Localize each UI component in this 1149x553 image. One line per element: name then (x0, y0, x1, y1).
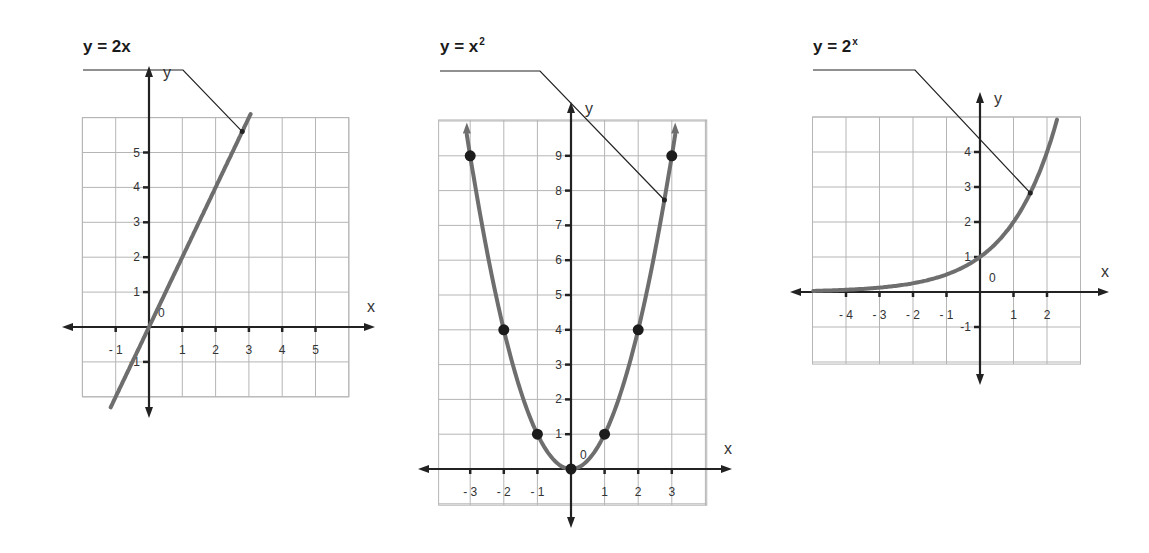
x-tick-label: - 1 (939, 308, 953, 322)
y-axis-down-arrow-icon (145, 407, 153, 418)
axes: - 4- 3- 2- 112-11234xy0 (790, 90, 1109, 385)
y-tick-label: 4 (133, 180, 140, 194)
data-point (633, 324, 644, 335)
x-axis-label: x (367, 298, 375, 315)
origin-label: 0 (989, 271, 996, 285)
y-tick-label: 9 (555, 149, 562, 163)
x-tick-label: 2 (212, 343, 219, 357)
x-tick-label: 1 (601, 485, 608, 499)
data-point (532, 429, 543, 440)
data-point (566, 464, 577, 475)
y-tick-label: 7 (555, 218, 562, 232)
x-tick-label: - 2 (497, 485, 511, 499)
x-tick-label: 3 (668, 485, 675, 499)
function-curve (111, 114, 251, 407)
data-point (666, 150, 677, 161)
graphs-canvas: - 112345-112345xy0 - 3- 2- 1123123456789… (0, 0, 1149, 553)
x-axis-left-arrow-icon (62, 323, 73, 331)
y-axis-down-arrow-icon (567, 517, 575, 528)
x-tick-label: - 1 (109, 343, 123, 357)
x-tick-label: 2 (1044, 308, 1051, 322)
x-axis-left-arrow-icon (790, 288, 801, 296)
x-tick-label: 2 (635, 485, 642, 499)
leader-anchor-dot (1028, 190, 1033, 195)
y-axis-up-arrow-icon (145, 66, 153, 77)
x-tick-label: 3 (246, 343, 253, 357)
data-point (599, 429, 610, 440)
x-tick-label: - 4 (839, 308, 853, 322)
x-tick-label: - 3 (872, 308, 886, 322)
x-axis-label: x (1101, 263, 1109, 280)
chart-quadratic: - 3- 2- 1123123456789xy0 (418, 71, 732, 528)
x-tick-label: - 2 (906, 308, 920, 322)
leader-anchor-dot (240, 129, 245, 134)
y-tick-label: 4 (964, 145, 971, 159)
y-tick-label: 5 (133, 146, 140, 160)
data-point (498, 324, 509, 335)
x-axis-right-arrow-icon (364, 323, 375, 331)
y-tick-label: 2 (964, 215, 971, 229)
x-tick-label: - 3 (463, 485, 477, 499)
y-tick-label: 1 (133, 285, 140, 299)
x-axis-right-arrow-icon (1098, 288, 1109, 296)
y-axis-down-arrow-icon (976, 374, 984, 385)
leader-anchor-dot (662, 197, 667, 202)
x-tick-label: 1 (179, 343, 186, 357)
chart-exponential: - 4- 3- 2- 112-11234xy0 (790, 70, 1109, 385)
x-axis-right-arrow-icon (721, 465, 732, 473)
x-tick-label: 5 (312, 343, 319, 357)
axes: - 3- 2- 1123123456789xy0 (418, 100, 732, 528)
y-axis-label: y (585, 100, 593, 117)
x-tick-label: 4 (279, 343, 286, 357)
chart-linear: - 112345-112345xy0 (62, 64, 375, 418)
y-tick-label: 3 (133, 215, 140, 229)
y-tick-label: -1 (960, 320, 971, 334)
y-axis-up-arrow-icon (976, 92, 984, 103)
grid (813, 117, 1081, 364)
x-axis-label: x (724, 440, 732, 457)
x-axis-left-arrow-icon (418, 465, 429, 473)
curve-arrow-icon (671, 123, 679, 134)
y-tick-label: 3 (964, 180, 971, 194)
y-axis-label: y (994, 90, 1002, 107)
y-tick-label: 2 (133, 250, 140, 264)
y-tick-label: 5 (555, 288, 562, 302)
data-point (465, 150, 476, 161)
x-tick-label: 1 (1010, 308, 1017, 322)
x-tick-label: - 1 (530, 485, 544, 499)
y-axis-label: y (163, 64, 171, 81)
y-tick-label: 1 (555, 427, 562, 441)
y-tick-label: 4 (555, 323, 562, 337)
function-curve (813, 120, 1057, 291)
y-tick-label: 6 (555, 253, 562, 267)
y-tick-label: 8 (555, 184, 562, 198)
curve-arrow-icon (463, 123, 471, 134)
function-graphs-figure: y = 2x y = x2 y = 2x - 112345-112345xy0 … (0, 0, 1149, 553)
y-tick-label: 3 (555, 358, 562, 372)
y-tick-label: 2 (555, 392, 562, 406)
